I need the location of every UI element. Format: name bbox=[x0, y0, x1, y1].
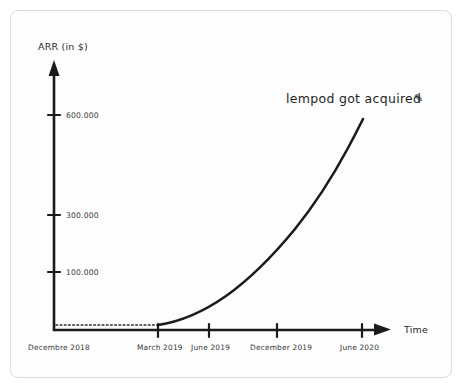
acquisition-annotation-label: lempod got acquired bbox=[286, 91, 421, 106]
y-tick-label-100000: 100.000 bbox=[66, 268, 99, 277]
pen-nib-icon: ✎ bbox=[414, 92, 423, 105]
growth-curve-line bbox=[158, 119, 363, 325]
x-tick-label-march-2019: March 2019 bbox=[137, 343, 183, 352]
y-axis-title: ARR (in $) bbox=[38, 41, 88, 52]
x-axis-arrow-icon bbox=[374, 324, 391, 336]
x-tick-label-decembre-2018: Decembre 2018 bbox=[28, 343, 90, 352]
y-axis-arrow-icon bbox=[49, 60, 60, 76]
y-tick-label-600000: 600.000 bbox=[66, 111, 99, 120]
x-axis-title: Time bbox=[403, 324, 428, 335]
x-tick-label-june-2020: June 2020 bbox=[339, 343, 379, 352]
arr-growth-chart: ARR (in $) Time 600.000 300.000 100.000 … bbox=[0, 0, 465, 388]
x-tick-label-june-2019: June 2019 bbox=[190, 343, 230, 352]
y-tick-label-300000: 300.000 bbox=[66, 211, 99, 220]
x-tick-label-december-2019: December 2019 bbox=[250, 343, 312, 352]
